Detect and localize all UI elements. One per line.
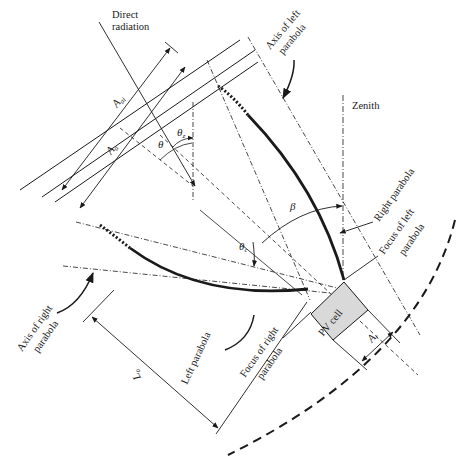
right-parabola (248, 115, 344, 280)
L-a-ext-top (83, 290, 114, 322)
direct-radiation-label-1: Direct (112, 9, 138, 20)
cpc-diagram: PV cell Direct radiation Axis of left pa… (0, 0, 467, 460)
focus-left-leader (344, 256, 378, 280)
A-r-ext-2 (333, 340, 367, 370)
aperture-line-inner-2 (55, 62, 258, 202)
left-parabola (130, 248, 308, 291)
beta-symbol: β (289, 200, 296, 212)
A-r-symbol: Ar (364, 329, 382, 346)
theta-c-ref-line (200, 210, 302, 295)
A-ai-dimension-line (62, 48, 170, 190)
right-parabola-dotted (218, 86, 248, 115)
theta-symbol: θ (158, 138, 164, 150)
left-parabola-label: Left parabola (179, 330, 213, 386)
L-a-dimension-line (92, 317, 218, 428)
theta-arc (160, 143, 192, 160)
direct-radiation-label-2: radiation (112, 21, 150, 32)
axis-right-leader (57, 273, 93, 313)
A-a-symbol: Aa (103, 140, 121, 158)
theta-z-symbol: θz (177, 126, 185, 140)
left-parabola-leader (225, 315, 254, 350)
L-a-symbol: La (128, 367, 145, 383)
left-parabola-dotted (100, 225, 130, 248)
zenith-label: Zenith (352, 100, 380, 111)
axis-left-parabola-line-2 (207, 60, 310, 300)
theta-c-symbol: θc (239, 240, 248, 254)
aperture-line-outer (20, 40, 240, 190)
axis-right-parabola-line-2 (76, 222, 345, 290)
A-ai-symbol: Aai (109, 92, 128, 111)
right-parabola-leader (340, 222, 373, 233)
axis-left-leader (283, 60, 294, 98)
